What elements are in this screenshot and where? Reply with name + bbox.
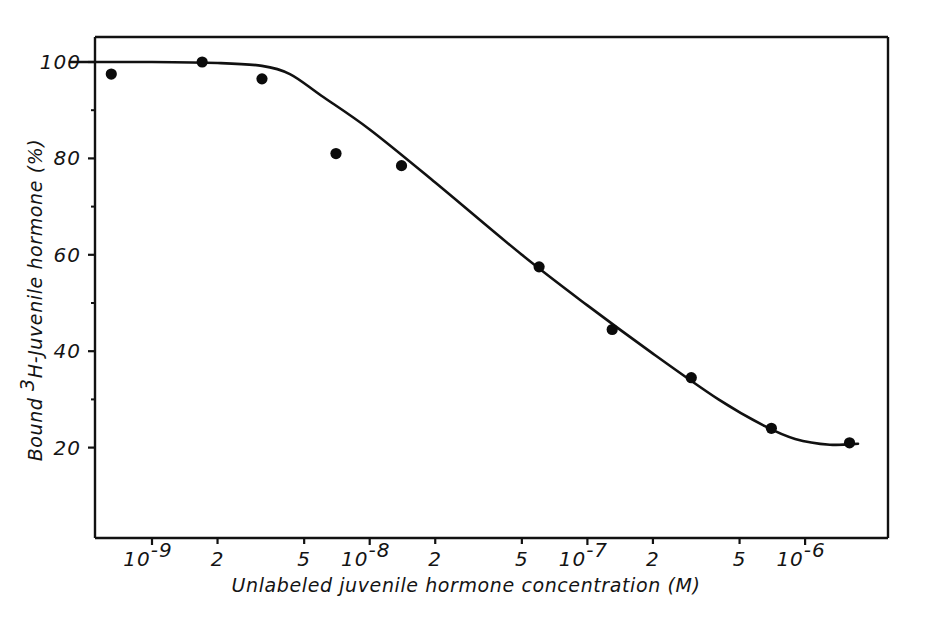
x-axis-tick-label: 2: [646, 547, 660, 571]
x-axis-tick-label: 10-9: [123, 538, 172, 571]
data-point: [106, 68, 117, 79]
data-point: [766, 423, 777, 434]
y-axis-tick-label: 40: [54, 339, 81, 363]
data-point: [607, 324, 618, 335]
svg-text:Bound 3H-Juvenile hormone (%): Bound 3H-Juvenile hormone (%): [16, 139, 46, 462]
data-point: [396, 160, 407, 171]
data-point: [256, 73, 267, 84]
data-point-series: [106, 56, 855, 448]
y-axis-tick-label: 60: [54, 243, 81, 267]
x-axis-tick-label: 10-7: [559, 538, 608, 571]
svg-text:Unlabeled juvenile hormone con: Unlabeled juvenile hormone concentration…: [232, 574, 701, 596]
data-point: [686, 372, 697, 383]
x-axis-tick-label: 5: [515, 547, 529, 571]
binding-curve-plot: 10080604020 10-92510-82510-72510-6 Unlab…: [0, 0, 933, 621]
y-axis-title: Bound 3H-Juvenile hormone (%): [16, 139, 46, 462]
y-axis-tick-label: 20: [54, 436, 81, 460]
x-axis-tick-label: 5: [733, 547, 747, 571]
x-axis-title: Unlabeled juvenile hormone concentration…: [232, 574, 701, 596]
x-axis-tick-label: 5: [297, 547, 311, 571]
x-axis-tick-label: 2: [428, 547, 442, 571]
chart-figure: 10080604020 10-92510-82510-72510-6 Unlab…: [0, 0, 933, 621]
data-point: [330, 148, 341, 159]
x-axis-tick-label: 10-8: [341, 538, 390, 571]
x-axis-tick-label: 10-6: [776, 538, 825, 571]
plot-frame: [95, 37, 888, 538]
x-axis-tick-labels: 10-92510-82510-72510-6: [123, 538, 826, 571]
x-axis-tick-label: 2: [211, 547, 225, 571]
data-point: [534, 261, 545, 272]
data-point: [197, 56, 208, 67]
fitted-curve: [70, 62, 858, 445]
y-axis-tick-label: 80: [54, 146, 81, 170]
data-point: [844, 437, 855, 448]
